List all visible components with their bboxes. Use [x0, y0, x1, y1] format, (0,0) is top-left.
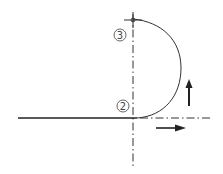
point-3-label: 3	[114, 29, 126, 41]
svg-text:3: 3	[117, 30, 123, 41]
svg-text:2: 2	[120, 101, 126, 112]
crosshair-marker-icon	[124, 12, 142, 28]
toolpath-diagram: 3 2	[0, 0, 223, 174]
arc-path	[133, 19, 181, 118]
diagram-svg: 3 2	[0, 0, 223, 174]
point-2-label: 2	[117, 100, 129, 112]
arrow-up-icon	[186, 79, 193, 106]
arrow-right-icon	[156, 125, 186, 132]
